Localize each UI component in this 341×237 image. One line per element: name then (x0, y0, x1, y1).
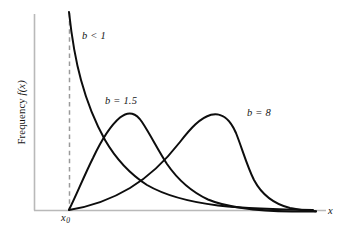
x-origin-label: x0 (61, 213, 70, 224)
weibull-distribution-figure: b < 1 b = 1.5 b = 8 x x0 Frequency f(x) (0, 0, 341, 237)
y-axis-label-fx: f(x) (16, 80, 27, 95)
x-origin-subscript: 0 (66, 216, 70, 225)
curve-label-b-8: b = 8 (247, 108, 271, 119)
curve-b-8 (69, 114, 316, 211)
y-axis-label-text: Frequency (16, 95, 27, 144)
curve-b-less-than-1 (69, 12, 313, 210)
x-axis-label: x (328, 206, 333, 217)
curve-label-b-less-than-1: b < 1 (82, 31, 106, 42)
plot-canvas (0, 0, 341, 237)
curve-label-b-1-5: b = 1.5 (105, 96, 137, 107)
y-axis-label: Frequency f(x) (17, 57, 28, 167)
